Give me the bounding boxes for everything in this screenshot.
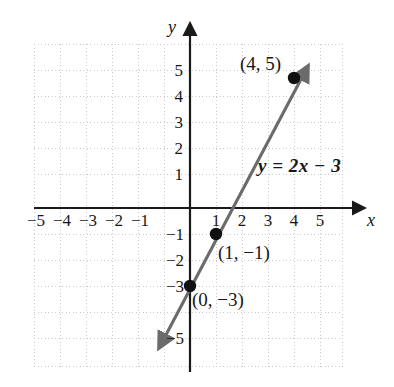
y-tick-label-neg1: −1 xyxy=(158,226,184,243)
equation-label: y = 2x − 3 xyxy=(258,156,341,175)
y-tick-label-4: 4 xyxy=(164,88,183,105)
x-tick-label-neg1: −1 xyxy=(131,212,149,229)
graph-figure: y x −5 −4 −3 −2 −1 1 2 3 4 5 5 4 3 2 1 −… xyxy=(0,0,394,387)
x-tick-label-neg4: −4 xyxy=(53,212,71,229)
x-tick-label-neg2: −2 xyxy=(105,212,123,229)
point-label-4-5: (4, 5) xyxy=(240,54,281,73)
coordinate-plane-svg xyxy=(0,0,394,387)
grid-lines xyxy=(34,44,342,368)
y-axis-label: y xyxy=(168,18,176,36)
y-tick-label-5: 5 xyxy=(164,62,183,79)
y-tick-label-neg2: −2 xyxy=(158,252,184,269)
x-axis-label: x xyxy=(367,211,375,229)
point-label-0-neg3: (0, −3) xyxy=(192,290,244,309)
data-point-4-5 xyxy=(288,72,300,84)
point-label-1-neg1: (1, −1) xyxy=(218,243,270,262)
x-tick-label-4: 4 xyxy=(286,212,302,229)
y-tick-label-2: 2 xyxy=(164,140,183,157)
y-tick-label-neg5: −5 xyxy=(158,330,184,347)
x-tick-label-2: 2 xyxy=(234,212,250,229)
x-tick-label-1: 1 xyxy=(208,212,224,229)
y-tick-label-neg3: −3 xyxy=(158,278,184,295)
x-tick-label-3: 3 xyxy=(260,212,276,229)
x-tick-label-neg3: −3 xyxy=(79,212,97,229)
y-tick-label-3: 3 xyxy=(164,114,183,131)
x-tick-label-5: 5 xyxy=(312,212,328,229)
x-tick-label-neg5: −5 xyxy=(27,212,45,229)
y-tick-label-1: 1 xyxy=(164,166,183,183)
